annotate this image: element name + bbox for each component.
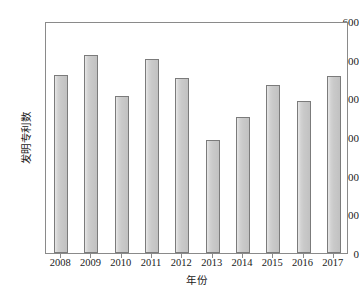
bar xyxy=(175,78,189,253)
bar xyxy=(236,117,250,253)
x-tick-label: 2011 xyxy=(141,257,162,268)
bar xyxy=(206,140,220,253)
x-tick-label: 2016 xyxy=(292,257,313,268)
plot-area xyxy=(45,22,348,254)
bar xyxy=(54,75,68,253)
bars-layer xyxy=(46,23,347,253)
bar xyxy=(266,85,280,253)
x-tick-label: 2012 xyxy=(171,257,192,268)
x-tick-label: 2015 xyxy=(262,257,283,268)
bar xyxy=(327,76,341,253)
x-tick-label: 2008 xyxy=(50,257,71,268)
y-axis-title: 发明专利数 xyxy=(18,112,33,165)
x-tick-label: 2017 xyxy=(322,257,343,268)
x-tick-label: 2014 xyxy=(231,257,252,268)
x-tick-label: 2009 xyxy=(80,257,101,268)
bar-chart: 0100200300400500600 发明专利数 20082009201020… xyxy=(0,0,359,292)
x-axis-title: 年份 xyxy=(45,272,348,287)
bar xyxy=(145,59,159,253)
bar xyxy=(297,101,311,253)
x-tick-label: 2010 xyxy=(110,257,131,268)
bar xyxy=(84,55,98,253)
y-axis-title-container: 发明专利数 xyxy=(0,22,16,254)
x-tick-label: 2013 xyxy=(201,257,222,268)
bar xyxy=(115,96,129,253)
